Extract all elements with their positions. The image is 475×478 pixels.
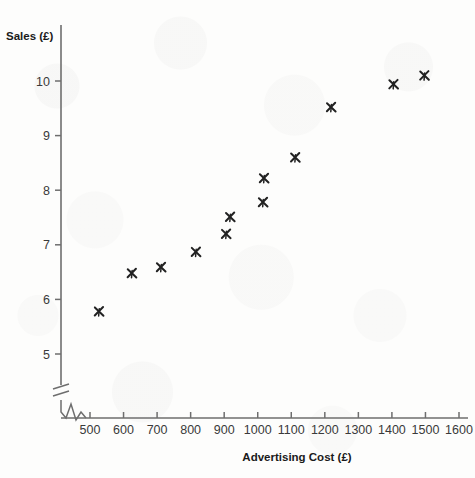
marker-stroke-c [196,249,197,256]
marker-stroke-c [99,309,100,316]
x-tick-label: 1100 [278,423,305,437]
data-point [259,198,268,207]
x-tick-label: 500 [80,423,101,437]
marker-stroke-c [263,200,264,207]
data-point [128,269,137,278]
data-point [291,153,300,162]
x-tick-label: 1400 [378,423,406,437]
y-tick-label: 9 [43,129,50,143]
data-point [157,263,166,272]
x-tick-label: 700 [147,423,168,437]
data-point [95,307,104,316]
x-tick-label: 1500 [412,423,440,437]
data-point [222,229,231,238]
marker-stroke-c [264,176,265,183]
y-axis-ticks: 5678910 [36,75,61,362]
data-point [420,71,429,80]
marker-stroke-c [226,231,227,238]
x-tick-label: 900 [214,423,235,437]
x-axis-ticks: 5006007008009001000110012001300140015001… [80,412,473,437]
y-tick-label: 8 [43,184,50,198]
x-tick-label: 1300 [344,423,372,437]
marker-stroke-c [295,155,296,162]
marker-stroke-c [424,73,425,80]
y-tick-label: 6 [43,293,50,307]
data-point [327,103,336,112]
marker-stroke-c [331,105,332,112]
x-axis-break-icon [61,400,86,420]
scatter-plot-page: Sales (£) Advertising Cost (£) 5678910 5… [0,0,475,478]
x-axis-title: Advertising Cost (£) [242,451,351,463]
data-point [389,80,398,89]
y-axis-title: Sales (£) [6,30,53,42]
x-tick-label: 1000 [244,423,272,437]
x-tick-label: 600 [113,423,134,437]
data-point [226,213,235,222]
marker-stroke-c [230,214,231,221]
y-tick-label: 5 [43,348,50,362]
x-tick-label: 1600 [445,423,473,437]
y-tick-label: 10 [36,75,50,89]
data-point [260,174,269,183]
data-point [192,247,201,256]
marker-stroke-c [393,82,394,89]
data-point-series [95,71,429,316]
x-tick-label: 800 [180,423,201,437]
marker-stroke-c [161,265,162,272]
x-tick-label: 1200 [311,423,339,437]
marker-stroke-c [132,271,133,278]
y-axis-break-icon [53,384,69,396]
y-tick-label: 7 [43,238,50,252]
scatter-plot-figure: Sales (£) Advertising Cost (£) 5678910 5… [0,0,475,478]
